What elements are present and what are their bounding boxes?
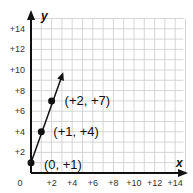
x-tick-label: +12 — [147, 178, 162, 188]
line-arrow-icon — [57, 72, 64, 81]
x-axis-arrow-icon — [178, 169, 188, 177]
y-tick-label: +4 — [15, 127, 25, 137]
x-axis-label: x — [175, 156, 184, 170]
data-line — [31, 76, 62, 163]
y-tick-label: +12 — [10, 44, 25, 54]
y-tick-label: +14 — [10, 24, 25, 34]
x-tick-label: +6 — [88, 178, 98, 188]
x-tick-label: +2 — [46, 178, 56, 188]
x-tick-label: +10 — [126, 178, 141, 188]
point-label: (+2, +7) — [65, 93, 111, 108]
data-point — [38, 128, 45, 135]
origin-label: 0 — [17, 178, 22, 188]
y-tick-label: +10 — [10, 65, 25, 75]
y-axis-arrow-icon — [27, 10, 35, 20]
point-label: (+1, +4) — [53, 124, 99, 139]
data-point — [48, 97, 55, 104]
data-point — [28, 159, 35, 166]
x-tick-label: +14 — [168, 178, 183, 188]
coordinate-plane-chart: yx+2+4+6+8+10+12+14+2+4+6+8+10+12+140(0,… — [0, 0, 193, 193]
x-tick-label: +4 — [67, 178, 77, 188]
y-axis-label: y — [40, 9, 49, 23]
x-tick-label: +8 — [108, 178, 118, 188]
y-tick-label: +8 — [15, 86, 25, 96]
point-label: (0, +1) — [44, 157, 82, 172]
y-tick-label: +6 — [15, 106, 25, 116]
y-tick-label: +2 — [15, 147, 25, 157]
